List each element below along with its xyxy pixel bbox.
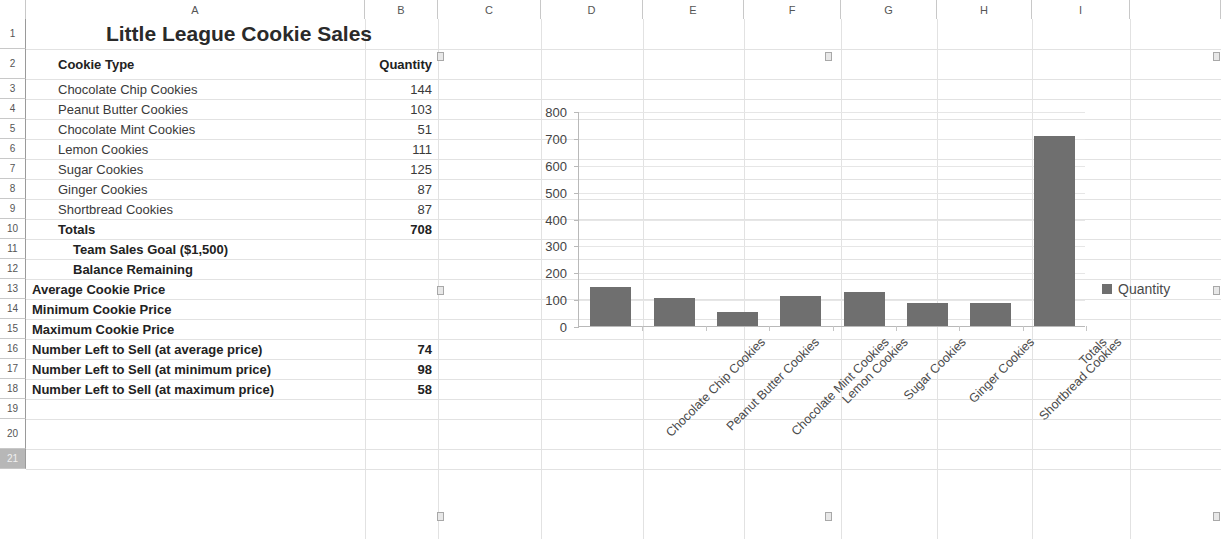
row-header-17[interactable]: 17 [0, 359, 26, 379]
row-header-13[interactable]: 13 [0, 279, 26, 299]
resize-handle-sw[interactable] [437, 512, 444, 521]
chart-gridline [579, 246, 1085, 247]
row-header-5[interactable]: 5 [0, 119, 26, 139]
row-header-11[interactable]: 11 [0, 239, 26, 259]
chart-bar[interactable] [970, 303, 1011, 326]
cell-a7[interactable]: Sugar Cookies [55, 159, 365, 179]
chart-bar[interactable] [907, 303, 948, 326]
chart-object[interactable]: 0100200300400500600700800 Chocolate Chip… [441, 57, 1216, 519]
resize-handle-n[interactable] [825, 52, 832, 61]
chart-inner: 0100200300400500600700800 Chocolate Chip… [441, 57, 1216, 519]
resize-handle-e[interactable] [1213, 286, 1220, 295]
chart-y-tick-mark [574, 246, 579, 247]
chart-y-tick-mark [574, 139, 579, 140]
row-header-10[interactable]: 10 [0, 219, 26, 239]
cell-a9[interactable]: Shortbread Cookies [55, 199, 365, 219]
cell-b8[interactable]: 87 [365, 179, 435, 199]
resize-handle-se[interactable] [1213, 512, 1220, 521]
row-header-15[interactable]: 15 [0, 319, 26, 339]
cell-b10[interactable]: 708 [365, 219, 435, 239]
row-header-8[interactable]: 8 [0, 179, 26, 199]
cell-a17[interactable]: Number Left to Sell (at minimum price) [29, 359, 365, 379]
column-header-g[interactable]: G [841, 0, 937, 19]
cell-b9[interactable]: 87 [365, 199, 435, 219]
column-header-d[interactable]: D [541, 0, 643, 19]
chart-x-tick-mark [959, 326, 960, 331]
row-header-7[interactable]: 7 [0, 159, 26, 179]
column-header-i[interactable]: I [1032, 0, 1130, 19]
row-header-4[interactable]: 4 [0, 99, 26, 119]
cell-a8[interactable]: Ginger Cookies [55, 179, 365, 199]
row-header-label: 7 [10, 163, 16, 174]
chart-y-tick-label: 700 [523, 131, 567, 146]
row-header-9[interactable]: 9 [0, 199, 26, 219]
resize-handle-nw[interactable] [437, 52, 444, 61]
row-header-16[interactable]: 16 [0, 339, 26, 359]
chart-legend[interactable]: Quantity [1102, 281, 1170, 297]
chart-y-tick-mark [574, 112, 579, 113]
cell-a14[interactable]: Minimum Cookie Price [29, 299, 365, 319]
cell-a3[interactable]: Chocolate Chip Cookies [55, 79, 365, 99]
column-header-h[interactable]: H [937, 0, 1032, 19]
row-header-19[interactable]: 19 [0, 399, 26, 419]
column-header-e[interactable]: E [643, 0, 744, 19]
select-all-corner[interactable] [0, 0, 26, 19]
row-header-6[interactable]: 6 [0, 139, 26, 159]
cell-a5[interactable]: Chocolate Mint Cookies [55, 119, 365, 139]
cell-a2-cookie-type[interactable]: Cookie Type [55, 49, 355, 79]
cell-b17[interactable]: 98 [365, 359, 435, 379]
cell-a15[interactable]: Maximum Cookie Price [29, 319, 365, 339]
cell-a13[interactable]: Average Cookie Price [29, 279, 365, 299]
row-header-2[interactable]: 2 [0, 49, 26, 79]
cell-a4[interactable]: Peanut Butter Cookies [55, 99, 365, 119]
cell-b16[interactable]: 74 [365, 339, 435, 359]
sheet-title[interactable]: Little League Cookie Sales [29, 19, 449, 49]
column-header-j[interactable] [1130, 0, 1221, 19]
row-header-21[interactable]: 21 [0, 449, 26, 469]
row-header-label: 14 [7, 303, 18, 314]
cell-b4[interactable]: 103 [365, 99, 435, 119]
chart-bar[interactable] [717, 312, 758, 326]
chart-y-tick-label: 400 [523, 212, 567, 227]
chart-bar[interactable] [780, 296, 821, 326]
row-header-20[interactable]: 20 [0, 419, 26, 449]
chart-bar[interactable] [844, 292, 885, 326]
cell-b6[interactable]: 111 [365, 139, 435, 159]
cell-a16[interactable]: Number Left to Sell (at average price) [29, 339, 365, 359]
resize-handle-w[interactable] [437, 286, 444, 295]
chart-plot-area: 0100200300400500600700800 [578, 112, 1085, 327]
resize-handle-s[interactable] [825, 512, 832, 521]
chart-gridline [579, 193, 1085, 194]
chart-bar[interactable] [590, 287, 631, 326]
cell-a11[interactable]: Team Sales Goal ($1,500) [70, 239, 365, 259]
row-header-1[interactable]: 1 [0, 19, 26, 49]
cell-b5[interactable]: 51 [365, 119, 435, 139]
chart-bar[interactable] [1034, 136, 1075, 326]
cell-a18[interactable]: Number Left to Sell (at maximum price) [29, 379, 365, 399]
cell-b18[interactable]: 58 [365, 379, 435, 399]
column-header-f[interactable]: F [744, 0, 841, 19]
cell-b7[interactable]: 125 [365, 159, 435, 179]
resize-handle-ne[interactable] [1213, 52, 1220, 61]
column-header-a[interactable]: A [26, 0, 365, 19]
chart-y-tick-mark [574, 300, 579, 301]
cell-b2-quantity[interactable]: Quantity [365, 49, 435, 79]
row-header-14[interactable]: 14 [0, 299, 26, 319]
chart-bar[interactable] [654, 298, 695, 326]
chart-x-tick-mark [833, 326, 834, 331]
cell-a6[interactable]: Lemon Cookies [55, 139, 365, 159]
cell-a12[interactable]: Balance Remaining [70, 259, 365, 279]
row-header-3[interactable]: 3 [0, 79, 26, 99]
column-header-c[interactable]: C [438, 0, 541, 19]
cell-a10[interactable]: Totals [55, 219, 365, 239]
chart-y-tick-label: 0 [523, 320, 567, 335]
row-header-18[interactable]: 18 [0, 379, 26, 399]
row-header-12[interactable]: 12 [0, 259, 26, 279]
chart-x-tick-mark [706, 326, 707, 331]
column-header-b[interactable]: B [365, 0, 438, 19]
row-header-label: 13 [7, 283, 18, 294]
chart-y-tick-label: 300 [523, 239, 567, 254]
row-header-label: 19 [7, 403, 18, 414]
cell-b3[interactable]: 144 [365, 79, 435, 99]
chart-x-tick-label: Ginger Cookies [966, 335, 1037, 406]
